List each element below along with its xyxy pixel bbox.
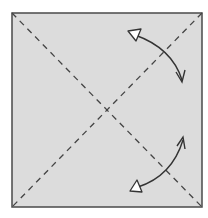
origami-diagram <box>0 0 208 218</box>
